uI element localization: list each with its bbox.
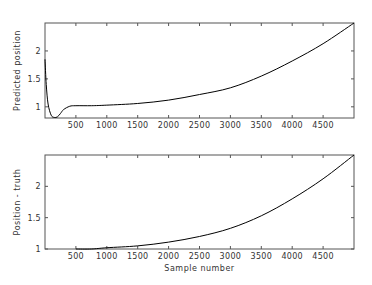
x-tick-label: 2500 [189, 252, 211, 261]
y-tick-label: 1.5 [27, 75, 41, 84]
axes-box [45, 23, 354, 118]
data-line [45, 23, 354, 118]
y-tick-label: 1 [36, 245, 41, 254]
x-tick-label: 3000 [220, 121, 242, 130]
chart-figure: 5001000150020002500300035004000450011.52… [0, 0, 372, 285]
x-tick-label: 2500 [189, 121, 211, 130]
axes-box [45, 155, 354, 249]
x-tick-label: 1500 [127, 252, 149, 261]
x-axis-label: Sample number [164, 264, 234, 273]
x-tick-label: 4000 [281, 252, 303, 261]
predicted-position-plot: 5001000150020002500300035004000450011.52… [13, 23, 354, 130]
data-line [76, 155, 354, 249]
position-truth-plot: 5001000150020002500300035004000450011.52… [13, 155, 354, 273]
x-tick-label: 500 [68, 252, 84, 261]
y-tick-label: 2 [36, 182, 41, 191]
x-tick-label: 1500 [127, 121, 149, 130]
y-tick-label: 1.5 [27, 214, 41, 223]
x-tick-label: 2000 [158, 252, 180, 261]
x-tick-label: 3000 [220, 252, 242, 261]
x-tick-label: 4500 [312, 252, 334, 261]
x-tick-label: 4000 [281, 121, 303, 130]
y-axis-label: Predicted position [13, 30, 22, 111]
y-tick-label: 1 [36, 103, 41, 112]
x-tick-label: 3500 [251, 121, 273, 130]
y-tick-label: 2 [36, 47, 41, 56]
x-tick-label: 500 [68, 121, 84, 130]
x-tick-label: 4500 [312, 121, 334, 130]
x-tick-label: 1000 [96, 252, 118, 261]
x-tick-label: 1000 [96, 121, 118, 130]
x-tick-label: 2000 [158, 121, 180, 130]
x-tick-label: 3500 [251, 252, 273, 261]
y-axis-label: Position - truth [13, 169, 22, 236]
